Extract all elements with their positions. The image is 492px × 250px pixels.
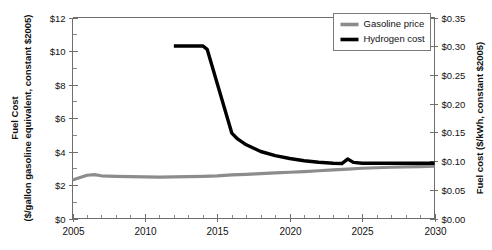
minor-tick-group xyxy=(73,35,421,219)
y2-axis-title: Fuel cost ($/kWh, constant $2005) xyxy=(474,42,485,195)
y2-axis-tick-label: $0.15 xyxy=(442,127,466,138)
x-axis-tick-label: 2010 xyxy=(134,226,157,237)
y2-axis-tick-label: $0.00 xyxy=(442,214,466,225)
y-axis-tick-label: $4 xyxy=(55,147,66,158)
x-axis-tick-label: 2020 xyxy=(279,226,302,237)
legend-label-hydrogen-cost: Hydrogen cost xyxy=(364,33,426,44)
y-axis-tick-label: $6 xyxy=(55,113,66,124)
y-axis-tick-label: $2 xyxy=(55,180,66,191)
x-axis-tick-label: 2005 xyxy=(62,226,85,237)
series-line-gasoline-price xyxy=(73,166,435,180)
series-line-hydrogen-cost xyxy=(174,46,435,164)
y-axis-tick-label: $0 xyxy=(55,214,66,225)
y2-axis-tick-label: $0.30 xyxy=(442,41,466,52)
x-axis-tick-label: 2015 xyxy=(206,226,229,237)
y-axis-tick-label: $8 xyxy=(55,80,66,91)
y-axis-title-line1: Fuel Cost xyxy=(9,96,20,140)
x-axis-tick-label: 2030 xyxy=(424,226,447,237)
y2-axis-tick-label: $0.10 xyxy=(442,156,466,167)
y2-axis-tick-label: $0.25 xyxy=(442,70,466,81)
y-axis-title-line2: ($/gallon gasoline equivalent, constant … xyxy=(22,15,33,222)
data-series-group xyxy=(73,46,435,180)
chart-legend[interactable]: Gasoline priceHydrogen cost xyxy=(334,14,431,51)
fuel-cost-chart: $0$2$4$6$8$10$12$0.00$0.05$0.10$0.15$0.2… xyxy=(0,0,492,250)
x-axis-tick-label: 2025 xyxy=(351,226,374,237)
y2-axis-tick-label: $0.35 xyxy=(442,13,466,24)
chart-plot-area: $0$2$4$6$8$10$12$0.00$0.05$0.10$0.15$0.2… xyxy=(0,0,492,250)
y2-axis-tick-label: $0.05 xyxy=(442,185,466,196)
y2-axis-tick-label: $0.20 xyxy=(442,99,466,110)
y-axis-tick-label: $10 xyxy=(50,46,66,57)
y-axis-tick-label: $12 xyxy=(50,13,66,24)
legend-label-gasoline-price: Gasoline price xyxy=(364,18,425,29)
